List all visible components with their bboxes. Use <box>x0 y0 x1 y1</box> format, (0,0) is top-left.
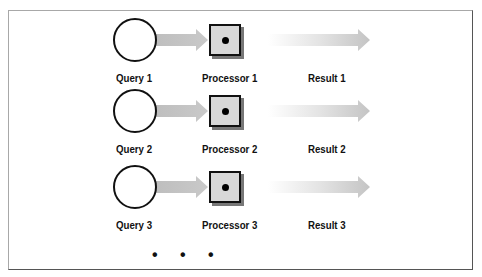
query-node <box>113 165 157 209</box>
pipeline-row-3: Query 3 Processor 3 Result 3 <box>0 165 482 235</box>
processor-label: Processor 1 <box>202 72 257 84</box>
arrow-icon <box>150 176 208 198</box>
arrow-icon <box>150 29 208 51</box>
arrow-icon <box>268 176 370 198</box>
processor-node <box>209 24 241 56</box>
dot-icon <box>222 184 229 191</box>
query-node <box>113 89 157 133</box>
processor-node <box>209 171 241 203</box>
processor-node <box>209 95 241 127</box>
processor-label: Processor 3 <box>202 219 257 231</box>
pipeline-row-1: Query 1 Processor 1 Result 1 <box>0 18 482 88</box>
pipeline-row-2: Query 2 Processor 2 Result 2 <box>0 89 482 159</box>
query-label: Query 1 <box>116 72 152 84</box>
continuation-ellipsis: • • • <box>152 250 223 260</box>
result-label: Result 3 <box>308 219 346 231</box>
query-label: Query 2 <box>116 143 152 155</box>
query-label: Query 3 <box>116 219 152 231</box>
arrow-icon <box>268 100 370 122</box>
processor-label: Processor 2 <box>202 143 257 155</box>
arrow-icon <box>268 29 370 51</box>
result-label: Result 1 <box>308 72 346 84</box>
dot-icon <box>222 108 229 115</box>
result-label: Result 2 <box>308 143 346 155</box>
dot-icon <box>222 37 229 44</box>
arrow-icon <box>150 100 208 122</box>
query-node <box>113 18 157 62</box>
